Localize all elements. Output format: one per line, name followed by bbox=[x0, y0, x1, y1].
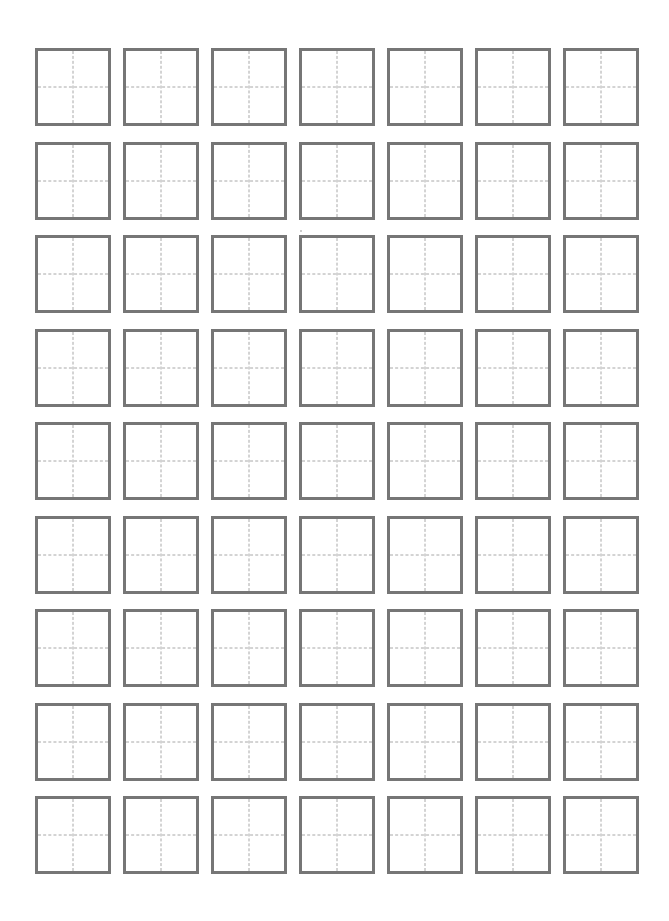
practice-cell bbox=[123, 329, 199, 407]
horizontal-guide-line bbox=[126, 180, 196, 181]
practice-cell bbox=[387, 422, 463, 500]
horizontal-guide-line bbox=[302, 367, 372, 368]
horizontal-guide-line bbox=[566, 648, 636, 649]
horizontal-guide-line bbox=[38, 274, 108, 275]
horizontal-guide-line bbox=[126, 835, 196, 836]
practice-cell bbox=[387, 142, 463, 220]
horizontal-guide-line bbox=[214, 180, 284, 181]
practice-cell bbox=[299, 142, 375, 220]
horizontal-guide-line bbox=[302, 648, 372, 649]
practice-cell bbox=[211, 422, 287, 500]
practice-cell bbox=[475, 796, 551, 874]
practice-cell bbox=[475, 142, 551, 220]
horizontal-guide-line bbox=[38, 367, 108, 368]
practice-cell bbox=[299, 329, 375, 407]
horizontal-guide-line bbox=[566, 835, 636, 836]
practice-cell bbox=[211, 142, 287, 220]
horizontal-guide-line bbox=[126, 741, 196, 742]
practice-cell bbox=[563, 516, 639, 594]
horizontal-guide-line bbox=[566, 741, 636, 742]
horizontal-guide-line bbox=[478, 367, 548, 368]
practice-cell bbox=[35, 235, 111, 313]
horizontal-guide-line bbox=[390, 367, 460, 368]
practice-cell bbox=[299, 516, 375, 594]
horizontal-guide-line bbox=[38, 461, 108, 462]
horizontal-guide-line bbox=[126, 554, 196, 555]
horizontal-guide-line bbox=[478, 180, 548, 181]
practice-cell bbox=[299, 235, 375, 313]
practice-cell bbox=[211, 609, 287, 687]
horizontal-guide-line bbox=[478, 835, 548, 836]
horizontal-guide-line bbox=[390, 461, 460, 462]
practice-cell bbox=[475, 516, 551, 594]
practice-cell bbox=[123, 703, 199, 781]
practice-cell bbox=[475, 703, 551, 781]
practice-cell bbox=[387, 796, 463, 874]
practice-cell bbox=[35, 796, 111, 874]
horizontal-guide-line bbox=[478, 554, 548, 555]
practice-cell bbox=[299, 703, 375, 781]
practice-cell bbox=[387, 235, 463, 313]
horizontal-guide-line bbox=[478, 87, 548, 88]
practice-cell bbox=[563, 329, 639, 407]
practice-cell bbox=[123, 235, 199, 313]
practice-cell bbox=[475, 609, 551, 687]
practice-cell bbox=[563, 48, 639, 126]
horizontal-guide-line bbox=[126, 274, 196, 275]
horizontal-guide-line bbox=[214, 87, 284, 88]
practice-cell bbox=[35, 516, 111, 594]
horizontal-guide-line bbox=[566, 461, 636, 462]
horizontal-guide-line bbox=[478, 461, 548, 462]
horizontal-guide-line bbox=[566, 274, 636, 275]
practice-cell bbox=[387, 703, 463, 781]
horizontal-guide-line bbox=[38, 554, 108, 555]
practice-cell bbox=[563, 796, 639, 874]
horizontal-guide-line bbox=[126, 367, 196, 368]
practice-cell bbox=[211, 516, 287, 594]
horizontal-guide-line bbox=[126, 461, 196, 462]
practice-cell bbox=[563, 142, 639, 220]
practice-cell bbox=[299, 48, 375, 126]
practice-cell bbox=[35, 142, 111, 220]
practice-cell bbox=[35, 48, 111, 126]
practice-cell bbox=[475, 48, 551, 126]
horizontal-guide-line bbox=[566, 87, 636, 88]
horizontal-guide-line bbox=[478, 648, 548, 649]
horizontal-guide-line bbox=[390, 835, 460, 836]
horizontal-guide-line bbox=[566, 554, 636, 555]
practice-cell bbox=[475, 235, 551, 313]
horizontal-guide-line bbox=[302, 741, 372, 742]
horizontal-guide-line bbox=[214, 648, 284, 649]
horizontal-guide-line bbox=[126, 648, 196, 649]
horizontal-guide-line bbox=[302, 274, 372, 275]
practice-cell bbox=[35, 422, 111, 500]
practice-cell bbox=[387, 329, 463, 407]
horizontal-guide-line bbox=[214, 554, 284, 555]
practice-cell bbox=[475, 422, 551, 500]
horizontal-guide-line bbox=[126, 87, 196, 88]
horizontal-guide-line bbox=[390, 554, 460, 555]
horizontal-guide-line bbox=[478, 741, 548, 742]
horizontal-guide-line bbox=[38, 87, 108, 88]
practice-cell bbox=[211, 235, 287, 313]
practice-cell bbox=[211, 796, 287, 874]
practice-cell bbox=[123, 796, 199, 874]
horizontal-guide-line bbox=[38, 648, 108, 649]
practice-cell bbox=[35, 609, 111, 687]
practice-cell bbox=[299, 609, 375, 687]
practice-cell bbox=[563, 422, 639, 500]
practice-cell bbox=[211, 48, 287, 126]
horizontal-guide-line bbox=[302, 180, 372, 181]
horizontal-guide-line bbox=[214, 367, 284, 368]
practice-cell bbox=[563, 235, 639, 313]
horizontal-guide-line bbox=[390, 87, 460, 88]
horizontal-guide-line bbox=[38, 835, 108, 836]
horizontal-guide-line bbox=[214, 835, 284, 836]
horizontal-guide-line bbox=[390, 180, 460, 181]
horizontal-guide-line bbox=[390, 648, 460, 649]
horizontal-guide-line bbox=[302, 87, 372, 88]
horizontal-guide-line bbox=[566, 180, 636, 181]
horizontal-guide-line bbox=[302, 461, 372, 462]
practice-cell bbox=[475, 329, 551, 407]
practice-cell bbox=[211, 329, 287, 407]
